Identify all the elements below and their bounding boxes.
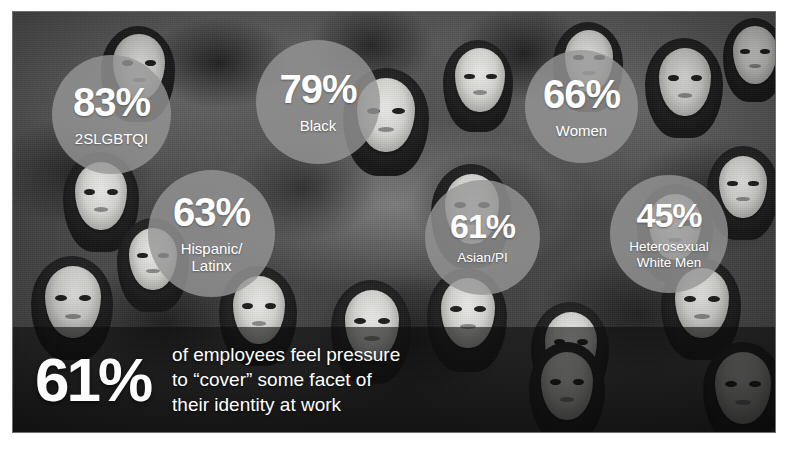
bubble-value: 79% — [279, 69, 356, 109]
bubble-label: Women — [556, 123, 607, 140]
bubble-value: 66% — [543, 74, 620, 114]
bubble-hispanic-latinx: 63% Hispanic/ Latinx — [148, 170, 275, 297]
infographic-canvas: 83% 2SLGBTQI 79% Black 66% Women 63% His… — [0, 0, 798, 451]
bubble-label: Hispanic/ Latinx — [181, 241, 243, 275]
headline-copy: of employees feel pressure to “cover” so… — [172, 342, 400, 417]
bubble-2slgbtqi: 83% 2SLGBTQI — [52, 55, 171, 174]
bubble-label: Black — [300, 118, 337, 135]
bubble-black: 79% Black — [256, 40, 380, 164]
bubble-value: 45% — [636, 198, 701, 232]
bubble-heterosexual-white-men: 45% Heterosexual White Men — [610, 175, 728, 293]
bubble-label: Asian/PI — [457, 250, 507, 265]
bubble-value: 83% — [73, 82, 150, 122]
crowd-mask-face — [733, 26, 775, 84]
bubble-women: 66% Women — [525, 50, 638, 163]
bubble-value: 61% — [450, 209, 515, 243]
bubble-label: Heterosexual White Men — [629, 239, 709, 269]
background-photograph: 83% 2SLGBTQI 79% Black 66% Women 63% His… — [13, 12, 775, 432]
headline-value: 61% — [35, 349, 150, 411]
bubble-asian-pi: 61% Asian/PI — [425, 180, 540, 295]
bubble-value: 63% — [173, 192, 250, 232]
headline-band: 61% of employees feel pressure to “cover… — [13, 327, 775, 432]
bubble-label: 2SLGBTQI — [75, 131, 148, 148]
